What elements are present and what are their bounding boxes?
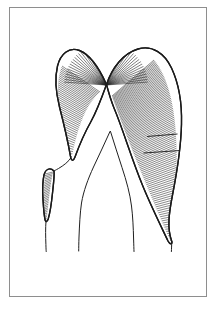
illustration-canvas (0, 0, 218, 310)
figure-root: Black-ink scientific line drawing of an … (0, 0, 218, 310)
lobe-descender (46, 221, 47, 252)
